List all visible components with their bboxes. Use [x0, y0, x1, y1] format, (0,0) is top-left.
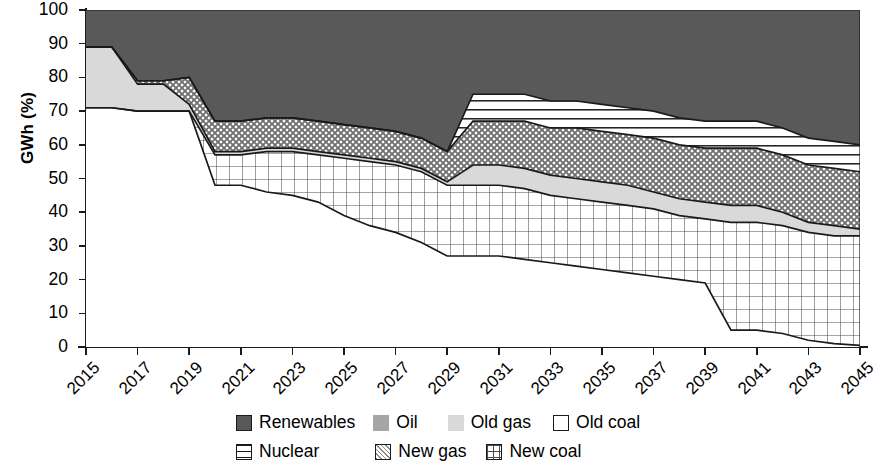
legend-label-new-gas: New gas	[398, 441, 466, 462]
x-tick-label-2043: 2043	[777, 358, 826, 407]
x-tick-mark-2019	[188, 347, 190, 355]
y-tick-label-30: 30	[24, 237, 68, 255]
legend-label-old-coal: Old coal	[576, 412, 640, 433]
x-tick-label-2045: 2045	[829, 358, 878, 407]
y-tick-label-20: 20	[24, 271, 68, 289]
x-tick-mark-2023	[292, 347, 294, 355]
x-tick-label-2035: 2035	[571, 358, 620, 407]
legend-label-oil: Oil	[396, 412, 417, 433]
x-tick-mark-2045	[859, 347, 861, 355]
x-tick-label-2019: 2019	[158, 358, 207, 407]
x-tick-label-2025: 2025	[313, 358, 362, 407]
y-tick-label-90: 90	[24, 35, 68, 53]
x-tick-mark-2025	[343, 347, 345, 355]
x-tick-label-2039: 2039	[674, 358, 723, 407]
y-tick-label-80: 80	[24, 68, 68, 86]
legend-swatch-oil-icon	[373, 415, 389, 431]
y-tick-label-0: 0	[24, 338, 68, 356]
legend-swatch-old-coal-icon	[553, 415, 569, 431]
x-tick-label-2037: 2037	[622, 358, 671, 407]
plot-area	[86, 10, 860, 347]
x-tick-mark-2041	[756, 347, 758, 355]
legend-swatch-new-coal-icon	[486, 444, 502, 460]
x-tick-label-2027: 2027	[364, 358, 413, 407]
x-tick-mark-2029	[446, 347, 448, 355]
legend-label-renewables: Renewables	[259, 412, 355, 433]
x-tick-mark-2015	[85, 347, 87, 355]
x-tick-mark-2037	[653, 347, 655, 355]
y-tick-label-60: 60	[24, 136, 68, 154]
chart-legend: RenewablesOilOld gasOld coal NuclearNew …	[0, 408, 881, 466]
legend-label-nuclear: Nuclear	[259, 441, 319, 462]
legend-item-oil[interactable]: Oil	[373, 412, 417, 433]
x-tick-label-2041: 2041	[725, 358, 774, 407]
x-tick-mark-2031	[498, 347, 500, 355]
legend-item-old-gas[interactable]: Old gas	[448, 412, 531, 433]
legend-swatch-old-gas-icon	[448, 415, 464, 431]
x-tick-mark-2033	[550, 347, 552, 355]
y-axis-tick-labels: 1009080706050403020100	[22, 0, 68, 360]
y-tick-label-40: 40	[24, 203, 68, 221]
x-tick-mark-2035	[601, 347, 603, 355]
legend-row-2: NuclearNew gasNew coal	[0, 437, 881, 466]
legend-item-new-gas[interactable]: New gas	[375, 441, 466, 462]
stacked-area-chart: GWh (%) 1009080706050403020100	[0, 0, 881, 471]
x-tick-label-2033: 2033	[519, 358, 568, 407]
y-tick-label-10: 10	[24, 304, 68, 322]
plot-svg	[86, 10, 860, 347]
legend-label-old-gas: Old gas	[471, 412, 531, 433]
legend-swatch-new-gas-icon	[375, 444, 391, 460]
x-tick-label-2023: 2023	[261, 358, 310, 407]
legend-item-old-coal[interactable]: Old coal	[553, 412, 640, 433]
y-tick-label-100: 100	[24, 1, 68, 19]
x-tick-mark-2017	[137, 347, 139, 355]
legend-item-renewables[interactable]: Renewables	[236, 412, 355, 433]
x-tick-label-2021: 2021	[209, 358, 258, 407]
x-tick-label-2031: 2031	[467, 358, 516, 407]
legend-item-nuclear[interactable]: Nuclear	[236, 441, 319, 462]
x-tick-mark-2021	[240, 347, 242, 355]
x-tick-mark-2043	[808, 347, 810, 355]
x-tick-mark-2027	[395, 347, 397, 355]
legend-row-1: RenewablesOilOld gasOld coal	[0, 408, 881, 437]
y-tick-label-50: 50	[24, 170, 68, 188]
y-tick-label-70: 70	[24, 102, 68, 120]
legend-swatch-renewables-icon	[236, 415, 252, 431]
x-tick-label-2017: 2017	[106, 358, 155, 407]
legend-item-new-coal[interactable]: New coal	[486, 441, 581, 462]
x-tick-label-2015: 2015	[55, 358, 104, 407]
legend-label-new-coal: New coal	[509, 441, 581, 462]
x-tick-label-2029: 2029	[416, 358, 465, 407]
legend-swatch-nuclear-icon	[236, 444, 252, 460]
x-tick-mark-2039	[704, 347, 706, 355]
